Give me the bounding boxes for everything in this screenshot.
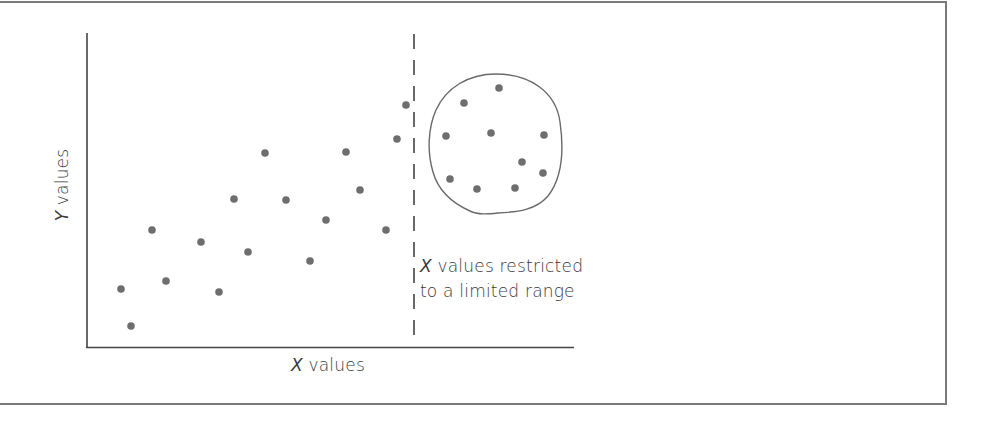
- restricted-group-circle: [429, 74, 562, 214]
- y-axis-label: Y values: [52, 149, 72, 222]
- x-axis-label: X values: [291, 355, 365, 375]
- data-point: [356, 186, 364, 194]
- data-point: [382, 226, 390, 234]
- data-point: [162, 277, 170, 285]
- data-point: [306, 257, 314, 265]
- data-point: [495, 84, 503, 92]
- data-point: [460, 99, 468, 107]
- y-axis-label-var: Y: [52, 211, 72, 222]
- data-point: [322, 216, 330, 224]
- data-point: [148, 226, 156, 234]
- data-point: [540, 131, 548, 139]
- data-point: [230, 195, 238, 203]
- scatter-plot: [0, 0, 983, 424]
- data-point: [402, 101, 410, 109]
- data-point: [487, 129, 495, 137]
- annotation-line-2: to a limited range: [420, 279, 583, 304]
- data-point: [117, 285, 125, 293]
- data-point: [446, 175, 454, 183]
- x-axis-label-var: X: [291, 355, 303, 375]
- data-point: [473, 185, 481, 193]
- data-point: [261, 149, 269, 157]
- annotation-line-1-text: values restricted: [432, 256, 583, 276]
- points-restricted-range: [442, 84, 548, 193]
- data-point: [442, 132, 450, 140]
- restriction-annotation: X values restricted to a limited range: [420, 254, 583, 304]
- data-point: [511, 184, 519, 192]
- points-full-range: [117, 101, 410, 330]
- annotation-var: X: [420, 256, 432, 276]
- data-point: [342, 148, 350, 156]
- data-point: [244, 248, 252, 256]
- annotation-line-1: X values restricted: [420, 254, 583, 279]
- data-point: [518, 158, 526, 166]
- data-point: [282, 196, 290, 204]
- data-point: [197, 238, 205, 246]
- data-point: [539, 169, 547, 177]
- y-axis-label-text: values: [52, 149, 72, 211]
- x-axis-label-text: values: [303, 355, 365, 375]
- data-point: [127, 322, 135, 330]
- data-point: [215, 288, 223, 296]
- data-point: [393, 135, 401, 143]
